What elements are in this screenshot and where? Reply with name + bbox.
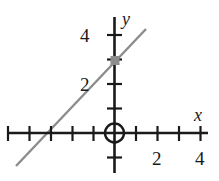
x-tick-label-4: 4 [195, 149, 205, 168]
y-intercept-marker [111, 56, 120, 65]
y-tick-label-2: 2 [80, 75, 90, 94]
x-tick-label-2: 2 [152, 149, 162, 168]
graph-canvas [0, 0, 219, 181]
linear-function-line [16, 29, 146, 166]
x-axis-label: x [194, 106, 202, 124]
coordinate-plane-figure: y x 4 2 2 4 [0, 0, 219, 181]
y-axis-label: y [122, 10, 130, 28]
y-tick-label-4: 4 [80, 26, 90, 45]
